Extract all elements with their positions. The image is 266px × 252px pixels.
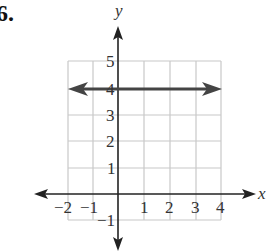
tick-x-minus-2: −2	[54, 198, 72, 217]
y-axis-label: y	[113, 1, 123, 20]
tick-y-4: 4	[106, 80, 115, 99]
coordinate-plane: y x −2 −1 1 2 3 4 5 4 3 2 1 −1	[0, 0, 266, 252]
tick-y-1: 1	[107, 159, 116, 178]
tick-y-minus-1: −1	[97, 211, 115, 230]
line-y-equals-4	[68, 82, 222, 96]
tick-y-5: 5	[106, 52, 115, 71]
tick-y-2: 2	[106, 132, 115, 151]
tick-y-3: 3	[106, 106, 115, 125]
tick-x-2: 2	[165, 198, 174, 217]
grid	[68, 61, 221, 220]
tick-x-1: 1	[140, 198, 149, 217]
tick-x-minus-1: −1	[80, 198, 98, 217]
tick-x-4: 4	[216, 198, 225, 217]
tick-x-3: 3	[191, 198, 200, 217]
x-axis-label: x	[257, 184, 266, 203]
